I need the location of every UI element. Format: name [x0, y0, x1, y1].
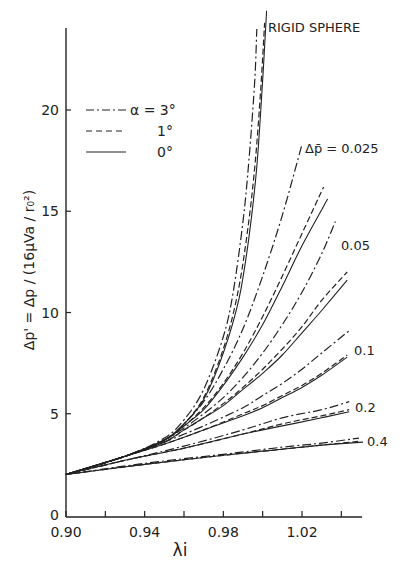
- curve-rigid-solid: [66, 11, 267, 475]
- curve-02-solid: [66, 412, 349, 475]
- x-axis-label: λi: [173, 540, 188, 560]
- curve-02-dash-dot: [66, 402, 349, 475]
- annotation-dp-005: 0.05: [341, 238, 370, 253]
- curve-005-dashed: [66, 272, 347, 475]
- chart: 0.900.940.981.0205101520 α = 3° 1° 0° RI…: [0, 0, 406, 571]
- x-tick-label: 0.90: [50, 524, 81, 540]
- legend-label-alpha-0: 0°: [157, 144, 173, 160]
- y-tick-label: 5: [50, 406, 59, 422]
- legend-label-alpha-3: α = 3°: [130, 102, 176, 118]
- curve-rigid-dash-dot: [66, 29, 257, 475]
- curves: [66, 11, 363, 475]
- curve-0025-dashed: [66, 187, 324, 475]
- curve-0025-solid: [66, 199, 328, 474]
- annotation-rigid-sphere: RIGID SPHERE: [268, 20, 360, 35]
- curve-04-solid: [66, 442, 363, 474]
- annotation-dp-01: 0.1: [354, 343, 375, 358]
- y-axis-label: Δp' = Δp / (16μVa / r₀²): [21, 190, 37, 350]
- annotation-dp-04: 0.4: [367, 434, 388, 449]
- x-tick-label: 1.02: [286, 524, 317, 540]
- annotation-dp-0025: Δp̄ = 0.025: [305, 141, 379, 156]
- annotation-dp-02: 0.2: [355, 400, 376, 415]
- ticks: 0.900.940.981.0205101520: [41, 102, 341, 540]
- legend-label-alpha-1: 1°: [157, 123, 173, 139]
- x-tick-label: 0.98: [208, 524, 239, 540]
- annotations: RIGID SPHERE Δp̄ = 0.025 0.05 0.1 0.2 0.…: [268, 20, 388, 449]
- y-tick-label: 0: [50, 507, 59, 523]
- x-tick-label: 0.94: [129, 524, 160, 540]
- y-tick-label: 20: [41, 102, 59, 118]
- y-tick-label: 10: [41, 305, 59, 321]
- legend: α = 3° 1° 0°: [86, 102, 176, 160]
- axes: [66, 28, 362, 517]
- y-tick-label: 15: [41, 203, 59, 219]
- curve-rigid-dashed: [66, 23, 265, 475]
